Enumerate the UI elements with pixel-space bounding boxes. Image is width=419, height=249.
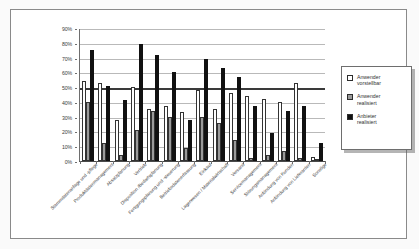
bar-groups: [80, 29, 325, 161]
bar-group: [164, 29, 176, 161]
bar-group: [245, 29, 257, 161]
y-axis-tick-label: 70%: [62, 56, 72, 62]
x-axis-label: Einkauf: [199, 162, 213, 176]
black-square-icon: [347, 114, 353, 120]
bar-group: [229, 29, 241, 161]
x-axis-label: Vertrieb: [133, 162, 148, 177]
bar: [262, 99, 266, 161]
y-axis-tick-label: 0%: [65, 159, 72, 165]
y-axis-tick-label: 40%: [62, 100, 72, 106]
y-axis: 0%10%20%30%40%50%60%70%80%90%: [51, 24, 77, 167]
y-axis-tick-label: 50%: [62, 85, 72, 91]
chart-legend: Anwender vorstellbar Anwender realisiert…: [341, 66, 412, 150]
x-axis-ticks: [80, 158, 325, 161]
x-axis-label: Versand: [230, 162, 245, 177]
bar: [270, 133, 274, 161]
legend-item: Anbieter realisiert: [347, 113, 407, 125]
legend-item-label: Anwender realisiert: [357, 93, 380, 105]
bar-group: [98, 29, 110, 161]
y-axis-tick-label: 10%: [62, 144, 72, 150]
y-axis-tick: [75, 73, 77, 74]
legend-item: Anwender vorstellbar: [347, 74, 407, 86]
y-axis-tick: [75, 103, 77, 104]
y-axis-tick-label: 20%: [62, 129, 72, 135]
bar: [245, 96, 249, 161]
bar: [172, 72, 176, 161]
chart-frame: 0%10%20%30%40%50%60%70%80%90% Stammdaten…: [10, 9, 407, 239]
bar-group: [196, 29, 208, 161]
bar-group: [262, 29, 274, 161]
bar: [253, 106, 257, 161]
bar: [106, 86, 110, 161]
bar-group: [278, 29, 290, 161]
gray-square-icon: [347, 94, 353, 100]
bar: [286, 111, 290, 161]
bar: [294, 83, 298, 161]
bar-group: [82, 29, 94, 161]
bar: [302, 106, 306, 161]
y-axis-tick: [75, 132, 77, 133]
bar: [188, 120, 192, 161]
bar-group: [147, 29, 159, 161]
bar: [204, 59, 208, 161]
bar: [123, 100, 127, 161]
bar: [155, 55, 159, 161]
bar: [139, 44, 143, 161]
x-axis-label: Sonstige: [312, 162, 328, 178]
white-square-icon: [347, 75, 353, 81]
y-axis-tick: [75, 147, 77, 148]
y-axis-tick: [75, 88, 77, 89]
y-axis-tick-label: 90%: [62, 26, 72, 32]
y-axis-tick-label: 60%: [62, 70, 72, 76]
y-axis-tick: [75, 118, 77, 119]
legend-item: Anwender realisiert: [347, 93, 407, 105]
y-axis-tick: [75, 162, 77, 163]
bar-group: [180, 29, 192, 161]
y-axis-tick-label: 30%: [62, 115, 72, 121]
y-axis-tick: [75, 29, 77, 30]
bar: [221, 68, 225, 161]
legend-item-label: Anbieter realisiert: [357, 113, 377, 125]
bar-group: [294, 29, 306, 161]
legend-item-label: Anwender vorstellbar: [357, 74, 381, 86]
plot-area: [79, 29, 325, 162]
y-axis-tick: [75, 59, 77, 60]
bar-group: [213, 29, 225, 161]
bar-group: [115, 29, 127, 161]
bar: [237, 77, 241, 161]
chart-screenshot: 0%10%20%30%40%50%60%70%80%90% Stammdaten…: [0, 0, 419, 249]
bar-group: [131, 29, 143, 161]
y-axis-tick-label: 80%: [62, 41, 72, 47]
bar-group: [311, 29, 323, 161]
y-axis-tick: [75, 44, 77, 45]
bar: [90, 50, 94, 161]
x-axis-labels: Stammdatenanlage und -pflegeProduktdaten…: [79, 162, 325, 222]
